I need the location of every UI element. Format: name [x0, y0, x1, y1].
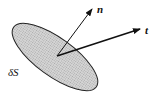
surface-element	[3, 12, 108, 96]
surface-label: δS	[8, 66, 19, 78]
diagram-canvas: n t δS	[0, 0, 156, 96]
tangent-vector-arrow	[57, 29, 140, 56]
normal-vector-label: n	[97, 3, 103, 15]
tangent-vector-label: t	[145, 24, 149, 36]
